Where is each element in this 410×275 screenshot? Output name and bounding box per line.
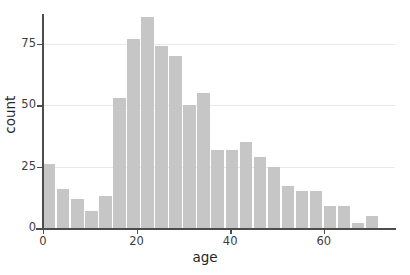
bar [127,39,139,228]
plot-area [43,10,395,228]
bar [296,191,308,228]
bar [71,199,83,228]
bar [268,167,280,228]
x-tick-label: 20 [129,236,144,248]
bar [85,211,97,228]
bar [155,46,167,228]
x-axis-line [36,228,396,230]
y-tick-label: 50 [21,99,36,111]
x-tick-label: 60 [316,236,331,248]
y-axis-title: count [4,85,18,145]
bar [324,206,336,228]
y-tick-label: 0 [29,222,36,234]
bar [43,164,55,228]
bar [113,98,125,228]
bar [310,191,322,228]
y-tick-mark [37,105,42,106]
x-tick-label: 0 [39,236,46,248]
bar [211,150,223,229]
bar [254,157,266,228]
bar [99,196,111,228]
x-axis-title: age [0,251,410,265]
bar [57,189,69,228]
bar [282,186,294,228]
bar [169,56,181,228]
y-tick-mark [37,167,42,168]
bar [197,93,209,228]
bar [141,17,153,228]
y-axis-line [42,14,44,229]
y-tick-mark [37,44,42,45]
gridline [43,105,395,106]
bar [240,142,252,228]
bar [338,206,350,228]
gridline [43,44,395,45]
y-tick-label: 25 [21,161,36,173]
histogram-figure: 0255075 0204060 count age [0,0,410,275]
bar [226,150,238,229]
y-tick-label: 75 [21,38,36,50]
bar [183,105,195,228]
y-tick-mark [37,228,42,229]
bar [366,216,378,228]
x-tick-label: 40 [223,236,238,248]
